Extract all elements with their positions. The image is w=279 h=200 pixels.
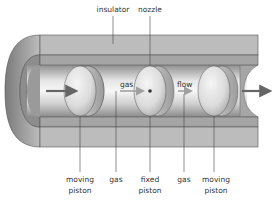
label-moving-piston-right-1: moving [202,175,230,184]
insulator-bottom-outer [40,127,258,147]
label-moving-piston-left-1: moving [66,175,94,184]
insulator-top-inner [40,55,258,65]
label-fixed-piston-2: piston [138,186,161,195]
label-gas-inner: gas [120,80,133,89]
label-fixed-piston-1: fixed [141,175,160,184]
label-insulator: insulator [97,5,131,14]
moving-piston-right [198,66,238,116]
label-gas-right: gas [177,175,190,184]
insulator-bottom-inner [40,117,258,127]
nozzle-hole [148,89,152,93]
label-gas-left: gas [109,175,122,184]
label-moving-piston-right-2: piston [204,186,227,195]
label-flow-inner: flow [177,80,192,89]
label-moving-piston-left-2: piston [68,186,91,195]
gas-flow-diagram: insulator nozzle gas flow moving piston … [0,0,279,200]
label-nozzle: nozzle [138,5,162,14]
insulator-top-outer [40,35,258,55]
